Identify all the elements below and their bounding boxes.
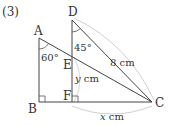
angle-arc-d [72, 29, 81, 33]
point-label-d: D [68, 5, 78, 19]
point-label-c: C [155, 96, 164, 110]
geometry-diagram: (3) A B C D E F 60° 45° 8 cm y cm x cm [0, 0, 169, 125]
angle-arc-a [39, 44, 49, 50]
measure-ef: y cm [74, 73, 99, 84]
point-label-f: F [63, 89, 71, 103]
point-label-e: E [63, 58, 72, 72]
right-angle-b [39, 96, 45, 102]
angle-label-d: 45° [74, 42, 92, 53]
angle-label-a: 60° [41, 52, 59, 63]
point-label-a: A [33, 24, 43, 38]
point-label-b: B [28, 102, 37, 116]
measure-dc: 8 cm [110, 57, 135, 68]
segment-ac [39, 38, 152, 102]
measure-fc: x cm [100, 111, 124, 122]
problem-number: (3) [2, 5, 19, 19]
